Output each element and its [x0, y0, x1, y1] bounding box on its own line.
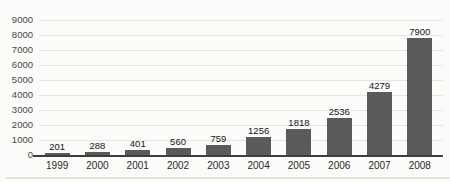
x-tick-label: 2001 — [118, 160, 158, 172]
bar — [407, 38, 432, 157]
bar-group: 201 — [37, 141, 77, 156]
y-tick-label: 3000 — [0, 105, 33, 115]
y-tick-label: 1000 — [0, 135, 33, 145]
y-tick-label: 2000 — [0, 120, 33, 130]
x-tick-label: 2002 — [158, 160, 198, 172]
bar-group: 759 — [198, 133, 238, 156]
bar-value-label: 560 — [170, 136, 186, 147]
bar-group: 1256 — [238, 125, 278, 156]
y-tick-label: 6000 — [0, 60, 33, 70]
x-tick-label: 2004 — [238, 160, 278, 172]
x-tick-label: 2007 — [359, 160, 399, 172]
bar-chart: 0100020003000400050006000700080009000 20… — [0, 0, 450, 182]
x-tick-label: 2000 — [77, 160, 117, 172]
bar — [286, 129, 311, 156]
bar-value-label: 1818 — [288, 117, 309, 128]
bars: 20128840156075912561818253642797900 — [37, 21, 440, 156]
x-axis-line — [33, 155, 443, 157]
y-tick-label: 9000 — [0, 15, 33, 25]
bar-group: 401 — [118, 138, 158, 156]
bar-value-label: 288 — [90, 140, 106, 151]
plot-area: 20128840156075912561818253642797900 — [37, 21, 440, 156]
bar-value-label: 201 — [49, 141, 65, 152]
bar-group: 1818 — [279, 117, 319, 156]
scan-artifact-line — [6, 177, 450, 179]
bar-value-label: 759 — [210, 133, 226, 144]
y-tick-label: 5000 — [0, 75, 33, 85]
x-axis: 1999200020012002200320042005200620072008 — [37, 160, 440, 172]
y-tick-label: 8000 — [0, 30, 33, 40]
y-tick-label: 7000 — [0, 45, 33, 55]
bar-value-label: 2536 — [329, 106, 350, 117]
bar-group: 560 — [158, 136, 198, 156]
bar-value-label: 4279 — [369, 80, 390, 91]
y-tick-label: 4000 — [0, 90, 33, 100]
x-tick-label: 2006 — [319, 160, 359, 172]
bar-group: 7900 — [400, 26, 440, 157]
bar-value-label: 401 — [130, 138, 146, 149]
x-tick-label: 2003 — [198, 160, 238, 172]
bar-group: 4279 — [359, 80, 399, 156]
bar-group: 2536 — [319, 106, 359, 156]
bar-group: 288 — [77, 140, 117, 156]
y-axis: 0100020003000400050006000700080009000 — [0, 21, 33, 156]
bar — [367, 92, 392, 156]
x-tick-label: 2005 — [279, 160, 319, 172]
bar-value-label: 1256 — [248, 125, 269, 136]
bar — [327, 118, 352, 156]
y-tick-label: 0 — [0, 150, 33, 160]
bar — [246, 137, 271, 156]
bar-value-label: 7900 — [409, 26, 430, 37]
x-tick-label: 1999 — [37, 160, 77, 172]
x-tick-label: 2008 — [400, 160, 440, 172]
